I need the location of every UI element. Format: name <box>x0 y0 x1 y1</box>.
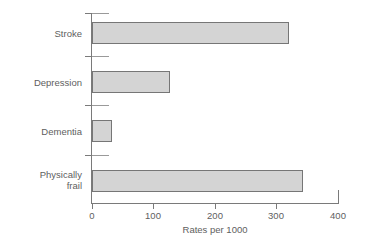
x-axis-title: Rates per 1000 <box>92 224 338 235</box>
category-label-stroke: Stroke <box>0 28 86 39</box>
x-axis-tick-2 <box>215 204 216 209</box>
category-label-physically-frail: Physically frail <box>0 169 86 191</box>
category-label-dementia: Dementia <box>0 126 86 137</box>
y-axis-stub-tick-0 <box>92 13 109 14</box>
bar-dementia <box>92 120 112 142</box>
category-label-depression: Depression <box>0 77 86 88</box>
bar-physically-frail <box>92 170 303 192</box>
x-axis-tick-4 <box>338 190 339 204</box>
bar-stroke <box>92 22 289 44</box>
y-axis-tick-0 <box>85 13 91 14</box>
x-axis-tick-label-0: 0 <box>77 210 107 221</box>
y-axis-tick-1 <box>85 56 91 57</box>
x-axis-tick-label-3: 300 <box>261 210 291 221</box>
y-axis-stub-tick-3 <box>92 155 109 156</box>
x-axis-tick-0 <box>92 204 93 209</box>
bar-chart: DoH priority group Stroke Depression Dem… <box>0 0 368 245</box>
y-axis-category-labels: Stroke Depression Dementia Physically fr… <box>0 0 86 245</box>
x-axis-tick-3 <box>276 204 277 209</box>
y-axis-stub-tick-2 <box>92 105 109 106</box>
bar-depression <box>92 71 170 93</box>
x-axis-tick-label-4: 400 <box>323 210 353 221</box>
x-axis-tick-1 <box>153 204 154 209</box>
x-axis-tick-label-2: 200 <box>200 210 230 221</box>
x-axis-tick-label-1: 100 <box>138 210 168 221</box>
y-axis-tick-3 <box>85 155 91 156</box>
y-axis-tick-2 <box>85 105 91 106</box>
y-axis-stub-tick-1 <box>92 56 109 57</box>
